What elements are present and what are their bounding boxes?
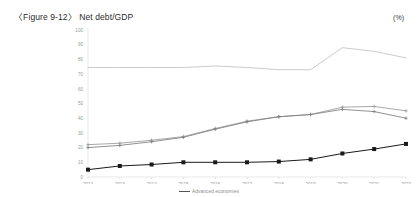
legend-line-icon	[179, 191, 190, 192]
figure-title: 〈Figure 9-12〉 Net debt/GDP	[14, 10, 133, 22]
y-axis-tick-label: 10	[78, 160, 84, 165]
unit-label: (%)	[393, 14, 404, 21]
series-marker-4	[86, 168, 90, 172]
legend-item-label: Advanced economies	[192, 189, 239, 194]
series-line-4	[88, 144, 406, 170]
y-axis-tick-label: 20	[78, 145, 84, 150]
y-axis-tick-label: 100	[75, 28, 83, 33]
y-axis-tick-label: 0	[80, 175, 83, 180]
series-marker-4	[404, 142, 408, 146]
x-axis-tick-label: 2022	[401, 182, 412, 185]
chart-legend: Advanced economies	[0, 185, 418, 197]
series-marker-4	[213, 160, 217, 164]
x-axis-tick-label: 2014	[146, 182, 157, 185]
x-axis-tick-label: 2012	[83, 182, 94, 185]
y-axis-tick-label: 40	[78, 116, 84, 121]
x-axis-tick-label: 2017	[242, 182, 253, 185]
x-axis-tick-label: 2018	[274, 182, 285, 185]
y-axis-tick-label: 60	[78, 87, 84, 92]
x-axis-tick-label: 2021	[369, 182, 380, 185]
series-marker-3	[118, 144, 122, 148]
line-chart-svg: 0102030405060708090100201220132014201520…	[0, 24, 418, 184]
x-axis-tick-label: 2013	[115, 182, 126, 185]
series-marker-4	[181, 160, 185, 164]
y-axis-tick-label: 80	[78, 57, 84, 62]
figure-container: 〈Figure 9-12〉 Net debt/GDP (%) 010203040…	[0, 0, 418, 197]
y-axis-tick-label: 70	[78, 72, 84, 77]
x-axis-tick-label: 2015	[178, 182, 189, 185]
series-marker-2	[404, 109, 408, 113]
series-marker-4	[245, 160, 249, 164]
series-marker-3	[277, 115, 281, 119]
series-marker-4	[150, 163, 154, 167]
x-axis-tick-label: 2020	[337, 182, 348, 185]
series-marker-3	[341, 108, 345, 112]
y-axis-tick-label: 50	[78, 101, 84, 106]
series-marker-4	[340, 151, 344, 155]
series-marker-3	[86, 146, 90, 150]
series-marker-4	[277, 160, 281, 164]
series-marker-4	[372, 147, 376, 151]
series-marker-3	[372, 110, 376, 114]
legend-item-advanced-economies: Advanced economies	[179, 189, 239, 194]
x-axis-tick-label: 2019	[305, 182, 316, 185]
series-marker-4	[309, 157, 313, 161]
series-marker-3	[404, 116, 408, 120]
chart-plot-area: 0102030405060708090100201220132014201520…	[0, 24, 418, 184]
y-axis-tick-label: 90	[78, 42, 84, 47]
series-marker-2	[372, 105, 376, 109]
series-marker-3	[309, 113, 313, 117]
series-line-2	[88, 106, 406, 144]
x-axis-tick-label: 2016	[210, 182, 221, 185]
y-axis-tick-label: 30	[78, 131, 84, 136]
series-line-1	[88, 48, 406, 70]
series-marker-4	[118, 164, 122, 168]
